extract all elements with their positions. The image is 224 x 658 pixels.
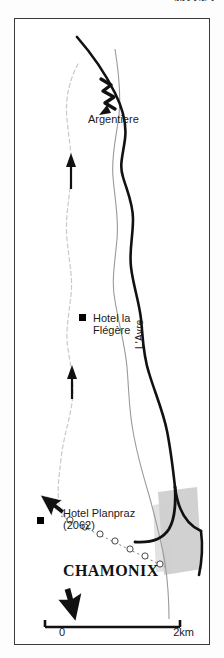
map-label-hotel-flegere: Hotel la Flégère — [93, 313, 130, 336]
map-label-hotel-planpraz: Hotel Planpraz (2062) — [63, 508, 135, 531]
cursor-pointer-compass — [55, 586, 82, 621]
map-label-hotel-flegere-line2: Flégère — [93, 325, 130, 337]
marker-hotel-planpraz — [37, 517, 44, 524]
map-label-river-lavre: L'Avre — [135, 319, 146, 349]
arrow-north-lower-icon — [67, 365, 77, 399]
scale-bar-max-label: 2km — [173, 626, 194, 638]
map-label-hotel-planpraz-line1: Hotel Planpraz — [63, 508, 135, 520]
map-label-hotel-planpraz-line2: (2062) — [63, 520, 135, 532]
scale-bar: 0 2km — [59, 626, 194, 640]
scale-bar-min-label: 0 — [59, 626, 65, 638]
hiking-trail — [58, 64, 78, 523]
arrow-north-upper-icon — [66, 153, 76, 189]
map-label-hotel-flegere-line1: Hotel la — [93, 313, 130, 325]
page-header-fragment: MONT — [174, 0, 218, 1]
glacier-symbol — [99, 79, 115, 115]
scale-bar-labels: 0 2km — [59, 626, 194, 640]
map-label-chamonix: CHAMONIX — [63, 563, 159, 580]
map-label-argentiere: Argentiere — [88, 114, 139, 126]
map-frame: Argentiere Hotel la Flégère Hotel Planpr… — [14, 18, 210, 645]
marker-hotel-flegere — [79, 314, 86, 321]
scanned-page: MONT — [0, 0, 224, 658]
